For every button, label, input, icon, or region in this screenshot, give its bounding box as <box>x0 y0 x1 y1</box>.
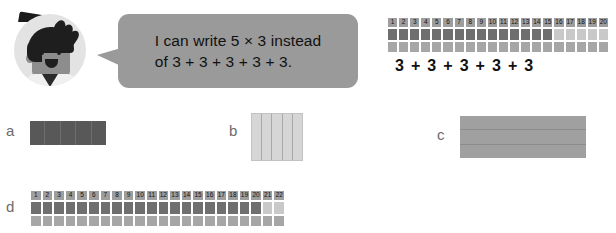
strip-shaded-cell <box>498 28 509 41</box>
option-c-row <box>460 145 586 158</box>
option-a-column <box>61 121 76 145</box>
strip-blank-cell <box>42 215 54 227</box>
strip-shaded-cell <box>88 201 100 215</box>
strip-unshaded-cell <box>553 28 564 41</box>
option-b-label: b <box>229 122 237 139</box>
strip-number-cell: 16 <box>553 17 564 28</box>
reference-strip-shaded-row <box>387 28 609 41</box>
avatar <box>14 14 86 86</box>
strip-number-cell: 8 <box>465 17 476 28</box>
strip-blank-cell <box>387 41 398 53</box>
strip-blank-cell <box>409 41 420 53</box>
option-a-column <box>76 121 91 145</box>
strip-blank-cell <box>227 215 239 227</box>
option-b-array[interactable] <box>251 113 303 161</box>
strip-shaded-cell <box>387 28 398 41</box>
strip-number-cell: 2 <box>398 17 409 28</box>
strip-blank-cell <box>476 41 487 53</box>
speech-line-1: I can write 5 × 3 instead <box>155 32 322 49</box>
option-b-column <box>262 114 272 160</box>
strip-blank-cell <box>420 41 431 53</box>
strip-blank-cell <box>454 41 465 53</box>
strip-number-cell: 21 <box>262 190 274 201</box>
strip-shaded-cell <box>420 28 431 41</box>
strip-blank-cell <box>587 41 598 53</box>
strip-shaded-cell <box>204 201 216 215</box>
option-c-array[interactable] <box>460 116 586 158</box>
option-d-shaded-row <box>30 201 285 215</box>
strip-number-cell: 5 <box>431 17 442 28</box>
strip-number-cell: 15 <box>192 190 204 201</box>
option-d-label: d <box>6 198 14 215</box>
strip-blank-cell <box>487 41 498 53</box>
strip-blank-cell <box>169 215 181 227</box>
option-a-column <box>30 121 45 145</box>
strip-shaded-cell <box>169 201 181 215</box>
avatar-collar-right <box>50 74 58 86</box>
strip-shaded-cell <box>65 201 77 215</box>
strip-unshaded-cell <box>598 28 609 41</box>
strip-shaded-cell <box>227 201 239 215</box>
strip-shaded-cell <box>250 201 262 215</box>
strip-blank-cell <box>146 215 158 227</box>
strip-blank-cell <box>158 215 170 227</box>
strip-shaded-cell <box>542 28 553 41</box>
strip-number-cell: 10 <box>134 190 146 201</box>
strip-unshaded-cell <box>262 201 274 215</box>
strip-number-cell: 3 <box>53 190 65 201</box>
strip-shaded-cell <box>216 201 228 215</box>
option-c-row <box>460 130 586 144</box>
strip-blank-cell <box>53 215 65 227</box>
strip-blank-cell <box>465 41 476 53</box>
option-b-column <box>283 114 293 160</box>
strip-shaded-cell <box>146 201 158 215</box>
option-c-label: c <box>437 126 445 143</box>
strip-blank-cell <box>250 215 262 227</box>
strip-unshaded-cell <box>587 28 598 41</box>
strip-blank-cell <box>509 41 520 53</box>
strip-number-cell: 18 <box>227 190 239 201</box>
strip-number-cell: 19 <box>239 190 251 201</box>
reference-equation: 3 + 3 + 3 + 3 + 3 <box>387 57 609 75</box>
strip-blank-cell <box>531 41 542 53</box>
strip-shaded-cell <box>181 201 193 215</box>
strip-blank-cell <box>576 41 587 53</box>
strip-shaded-cell <box>111 201 123 215</box>
strip-number-cell: 13 <box>169 190 181 201</box>
strip-shaded-cell <box>454 28 465 41</box>
strip-shaded-cell <box>409 28 420 41</box>
strip-shaded-cell <box>76 201 88 215</box>
strip-number-cell: 7 <box>454 17 465 28</box>
strip-blank-cell <box>273 215 285 227</box>
strip-blank-cell <box>239 215 251 227</box>
strip-blank-cell <box>431 41 442 53</box>
strip-shaded-cell <box>158 201 170 215</box>
strip-shaded-cell <box>442 28 453 41</box>
strip-number-cell: 12 <box>158 190 170 201</box>
strip-blank-cell <box>134 215 146 227</box>
strip-shaded-cell <box>509 28 520 41</box>
avatar-collar-left <box>42 74 50 86</box>
strip-number-cell: 12 <box>509 17 520 28</box>
strip-blank-cell <box>542 41 553 53</box>
strip-blank-cell <box>262 215 274 227</box>
strip-number-cell: 22 <box>273 190 285 201</box>
strip-shaded-cell <box>431 28 442 41</box>
option-a-array[interactable] <box>30 121 106 145</box>
strip-blank-cell <box>192 215 204 227</box>
strip-number-cell: 10 <box>487 17 498 28</box>
strip-blank-cell <box>100 215 112 227</box>
reference-strip-blank-row <box>387 41 609 53</box>
speech-bubble-text: I can write 5 × 3 instead of 3 + 3 + 3 +… <box>141 30 336 72</box>
strip-number-cell: 11 <box>146 190 158 201</box>
strip-shaded-cell <box>42 201 54 215</box>
strip-number-cell: 5 <box>76 190 88 201</box>
option-a-label: a <box>6 122 14 139</box>
strip-blank-cell <box>181 215 193 227</box>
option-a-column <box>92 121 106 145</box>
strip-blank-cell <box>520 41 531 53</box>
option-b-column <box>293 114 302 160</box>
strip-shaded-cell <box>134 201 146 215</box>
option-d-number-strip[interactable]: 12345678910111213141516171819202122 <box>30 190 285 227</box>
strip-shaded-cell <box>239 201 251 215</box>
